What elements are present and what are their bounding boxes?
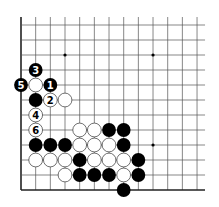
- star-point: [151, 143, 154, 146]
- stone-disc: [43, 153, 57, 167]
- move-number: 3: [32, 65, 39, 76]
- stone-disc: [29, 93, 43, 107]
- go-board: 351246: [0, 0, 219, 207]
- stone-disc: [117, 183, 131, 197]
- white-stone: [87, 138, 101, 152]
- star-point: [63, 53, 66, 56]
- stone-disc: [58, 168, 72, 182]
- black-stone-3: 3: [29, 63, 43, 77]
- move-number: 4: [32, 110, 39, 121]
- stone-disc: [131, 168, 145, 182]
- white-stone: [43, 153, 57, 167]
- stone-disc: [117, 168, 131, 182]
- black-stone: [73, 153, 87, 167]
- white-stone: [73, 123, 87, 137]
- white-stone: [73, 138, 87, 152]
- black-stone: [131, 168, 145, 182]
- stone-disc: [29, 78, 43, 92]
- white-stone-4: 4: [29, 108, 43, 122]
- move-number: 2: [47, 95, 54, 106]
- stone-disc: [73, 138, 87, 152]
- stone-disc: [117, 153, 131, 167]
- white-stone: [58, 153, 72, 167]
- white-stone: [117, 153, 131, 167]
- stone-disc: [102, 153, 116, 167]
- black-stone: [117, 183, 131, 197]
- black-stone-1: 1: [43, 78, 57, 92]
- move-number: 6: [32, 125, 39, 136]
- black-stone: [29, 93, 43, 107]
- black-stone: [73, 168, 87, 182]
- black-stone: [87, 168, 101, 182]
- white-stone: [58, 93, 72, 107]
- white-stone-6: 6: [29, 123, 43, 137]
- stone-disc: [58, 138, 72, 152]
- black-stone: [131, 153, 145, 167]
- stone-disc: [117, 123, 131, 137]
- black-stone: [58, 138, 72, 152]
- black-stone: [117, 138, 131, 152]
- stone-disc: [87, 123, 101, 137]
- black-stone: [102, 123, 116, 137]
- move-number: 5: [18, 80, 25, 91]
- white-stone: [117, 168, 131, 182]
- white-stone-2: 2: [43, 93, 57, 107]
- white-stone: [87, 123, 101, 137]
- black-stone: [102, 168, 116, 182]
- black-stone: [29, 138, 43, 152]
- black-stone: [43, 138, 57, 152]
- stone-disc: [102, 168, 116, 182]
- black-stone: [117, 123, 131, 137]
- stone-disc: [29, 138, 43, 152]
- stone-disc: [87, 138, 101, 152]
- move-number: 1: [47, 80, 54, 91]
- stone-disc: [73, 168, 87, 182]
- stone-disc: [29, 153, 43, 167]
- stone-disc: [87, 153, 101, 167]
- stone-disc: [73, 123, 87, 137]
- stone-disc: [43, 138, 57, 152]
- white-stone: [29, 78, 43, 92]
- stone-disc: [102, 123, 116, 137]
- white-stone: [87, 153, 101, 167]
- stone-disc: [73, 153, 87, 167]
- stone-disc: [102, 138, 116, 152]
- white-stone: [102, 153, 116, 167]
- white-stone: [58, 168, 72, 182]
- stone-disc: [87, 168, 101, 182]
- stone-disc: [58, 153, 72, 167]
- stone-disc: [58, 93, 72, 107]
- white-stone: [102, 138, 116, 152]
- stone-disc: [117, 138, 131, 152]
- star-point: [151, 53, 154, 56]
- black-stone-5: 5: [14, 78, 28, 92]
- stone-disc: [131, 153, 145, 167]
- white-stone: [29, 153, 43, 167]
